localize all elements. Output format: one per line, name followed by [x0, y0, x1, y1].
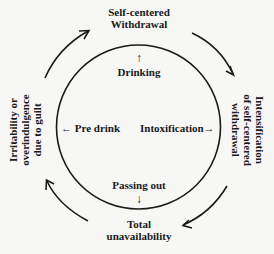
stage-right-line-2: of self-centered [242, 78, 254, 182]
inner-stage-intoxification-label: Intoxification [140, 122, 204, 134]
inner-stage-pre-drink-label: Pre drink [75, 122, 120, 134]
inner-stage-intoxification: Intoxification→ [140, 122, 215, 134]
inner-stage-passing-out: Passing out ↓ [102, 179, 176, 205]
right-arrow-icon: → [204, 122, 215, 134]
inner-stage-pre-drink: ← Pre drink [61, 122, 120, 134]
stage-intensification-withdrawal: Intensification of self-centered withdra… [228, 78, 266, 182]
stage-right-line-3: withdrawal [230, 78, 242, 182]
down-arrow-icon: ↓ [102, 193, 176, 205]
inner-stage-drinking: ↑ Drinking [108, 52, 170, 78]
arrow-right-to-bottom-icon [183, 186, 227, 228]
arrow-top-to-right-icon [192, 33, 234, 75]
stage-left-line-1: Irritability or [7, 82, 19, 178]
stage-bottom-line-2: unavailability [94, 230, 184, 242]
left-arrow-icon: ← [61, 122, 72, 134]
stage-irritability-overindulgence: Irritability or overindulgence due to gu… [7, 82, 45, 178]
up-arrow-icon: ↑ [108, 52, 170, 64]
stage-bottom-line-1: Total [94, 218, 184, 230]
stage-top-line-1: Self-centered [98, 6, 180, 18]
stage-total-unavailability: Total unavailability [94, 218, 184, 242]
inner-stage-drinking-label: Drinking [108, 66, 170, 78]
stage-right-line-1: Intensification [254, 78, 266, 182]
stage-self-centered-withdrawal: Self-centered Withdrawal [98, 6, 180, 30]
arrow-left-to-top-icon [45, 31, 89, 79]
stage-top-line-2: Withdrawal [98, 18, 180, 30]
inner-stage-passing-out-label: Passing out [102, 179, 176, 191]
stage-left-line-2: overindulgence [19, 82, 31, 178]
stage-left-line-3: due to guilt [31, 82, 43, 178]
